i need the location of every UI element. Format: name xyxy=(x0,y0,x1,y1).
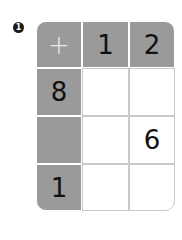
answer-cell[interactable] xyxy=(129,68,175,116)
column-header: 1 xyxy=(82,21,129,68)
answer-cell[interactable] xyxy=(129,164,175,211)
column-header: 2 xyxy=(129,21,175,68)
row-header: 1 xyxy=(36,164,82,211)
answer-cell[interactable] xyxy=(82,164,129,211)
answer-cell[interactable] xyxy=(82,68,129,116)
row-header: 8 xyxy=(36,68,82,116)
row-header xyxy=(36,116,82,164)
answer-cell[interactable]: 6 xyxy=(129,116,175,164)
operator-cell: + xyxy=(36,21,82,68)
problem-number-badge: 1 xyxy=(13,22,24,33)
answer-cell[interactable] xyxy=(82,116,129,164)
addition-table: + 1 2 8 6 1 xyxy=(36,21,175,211)
